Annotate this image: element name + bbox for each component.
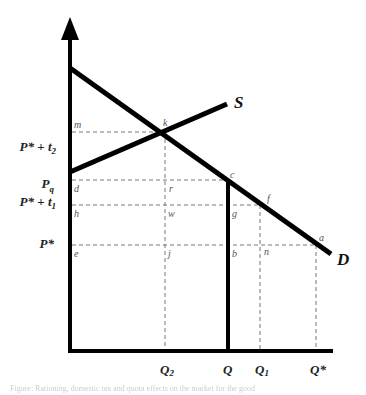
x-label-q1: Q1	[255, 362, 269, 378]
point-labels: m k d r c h w g f e j b n a	[74, 117, 324, 259]
point-e: e	[74, 248, 79, 259]
supply-demand-diagram: S D m k d r c h w g f e j b n a P* + t2 …	[0, 0, 366, 395]
x-label-qstar: Q*	[310, 362, 326, 377]
point-d: d	[74, 183, 80, 194]
point-h: h	[74, 208, 79, 219]
point-a: a	[319, 232, 324, 243]
point-m: m	[74, 119, 81, 130]
point-n: n	[264, 246, 269, 257]
axes	[61, 17, 333, 351]
y-axis-labels: P* + t2 Pq P* + t1 P*	[20, 139, 57, 251]
point-f: f	[267, 193, 271, 204]
x-label-q2: Q2	[160, 362, 174, 378]
y-label-pstar: P*	[40, 236, 55, 251]
guide-lines	[72, 132, 316, 349]
figure-caption: Figure: Rationing, domestic tax and quot…	[10, 384, 360, 394]
demand-curve	[70, 68, 331, 254]
y-label-pstar-plus-t1: P* + t1	[20, 194, 57, 211]
demand-label: D	[336, 250, 349, 269]
y-label-pstar-plus-t2: P* + t2	[20, 139, 57, 156]
x-axis-labels: Q2 Q Q1 Q*	[160, 362, 326, 378]
curves	[70, 68, 331, 351]
point-r: r	[169, 183, 173, 194]
point-b: b	[232, 248, 237, 259]
y-axis-arrow-icon	[61, 17, 79, 40]
point-c: c	[230, 169, 235, 180]
x-label-q: Q	[223, 362, 233, 377]
point-w: w	[168, 208, 175, 219]
point-g: g	[232, 208, 237, 219]
y-label-pq: Pq	[42, 176, 55, 194]
supply-label: S	[234, 93, 243, 112]
point-k: k	[163, 117, 168, 128]
point-j: j	[166, 248, 171, 259]
